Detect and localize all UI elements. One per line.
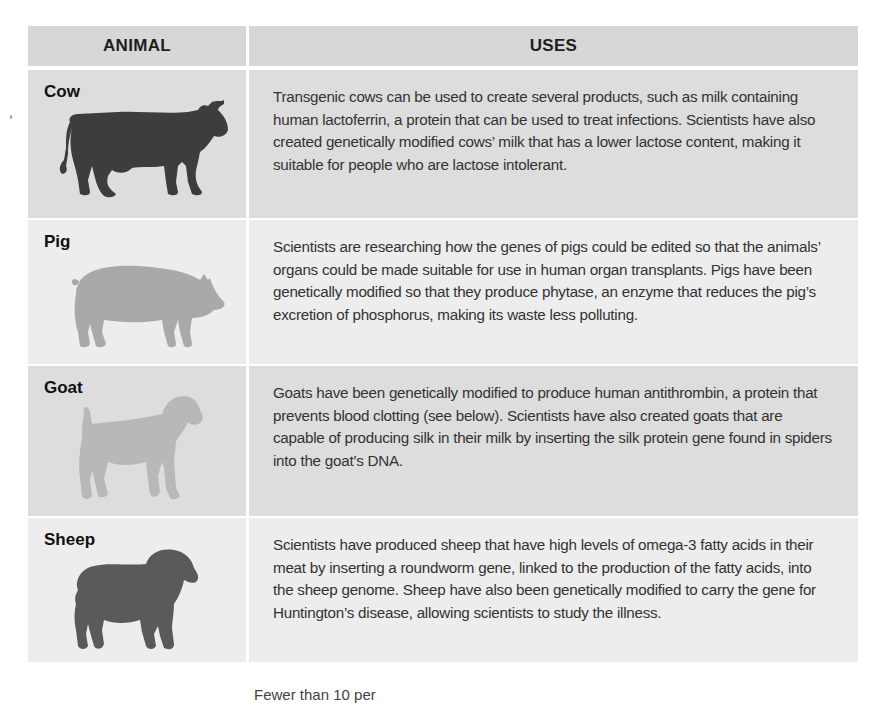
- uses-cell: Scientists have produced sheep that have…: [249, 518, 858, 662]
- uses-cell: Goats have been genetically modified to …: [249, 366, 858, 516]
- header-animal-label: ANIMAL: [28, 26, 246, 66]
- animal-cell: Goat: [28, 366, 246, 516]
- table-row-sheep: Sheep Scientists have produced sheep tha…: [28, 518, 858, 662]
- stray-mark: ,: [9, 104, 13, 120]
- uses-text: Goats have been genetically modified to …: [273, 382, 833, 472]
- uses-text: Scientists have produced sheep that have…: [273, 534, 833, 624]
- pig-icon: [28, 220, 246, 364]
- goat-icon: [28, 366, 246, 516]
- uses-text: Transgenic cows can be used to create se…: [273, 86, 833, 176]
- uses-cell: Scientists are researching how the genes…: [249, 220, 858, 364]
- table-row-pig: Pig Scientists are researching how the g…: [28, 220, 858, 364]
- uses-text: Scientists are researching how the genes…: [273, 236, 833, 326]
- animal-cell: Sheep: [28, 518, 246, 662]
- table-row-cow: Cow Transgenic cows can be used to creat…: [28, 70, 858, 218]
- cow-icon: [28, 70, 246, 218]
- uses-cell: Transgenic cows can be used to create se…: [249, 70, 858, 218]
- header-uses-label: USES: [249, 26, 858, 66]
- header-cell-uses: USES: [249, 26, 858, 66]
- footer-text: Fewer than 10 per: [254, 686, 376, 703]
- sheep-icon: [28, 518, 246, 662]
- animal-cell: Cow: [28, 70, 246, 218]
- table-header-row: ANIMAL USES: [28, 26, 858, 66]
- animal-cell: Pig: [28, 220, 246, 364]
- header-cell-animal: ANIMAL: [28, 26, 246, 66]
- table-row-goat: Goat Goats have been genetically modifie…: [28, 366, 858, 516]
